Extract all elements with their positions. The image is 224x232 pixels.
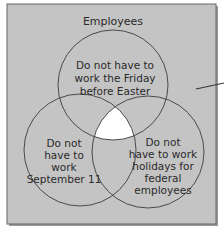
svg-text:Do not have to: Do not have to [76,59,154,71]
svg-text:have to: have to [44,149,84,161]
svg-text:have to work: have to work [129,148,198,160]
svg-text:Do not: Do not [46,137,81,149]
svg-text:work: work [51,161,77,173]
svg-text:Do not: Do not [145,136,180,148]
set-label-friday: Do not have to work the Friday before Ea… [74,59,155,97]
svg-text:federal: federal [145,172,182,184]
universe-label: Employees [83,15,143,28]
svg-text:before Easter: before Easter [80,85,151,97]
svg-text:work the Friday: work the Friday [74,72,155,84]
svg-text:employees: employees [134,184,191,196]
svg-text:September 11: September 11 [27,173,102,185]
svg-text:holidays for: holidays for [132,160,194,172]
venn-diagram: Employees Do not have to work the Friday… [0,0,224,232]
